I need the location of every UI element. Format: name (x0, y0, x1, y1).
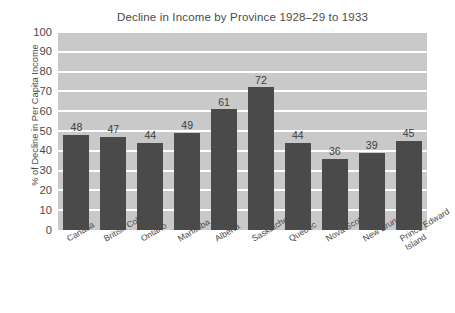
x-tick-label: Canada (65, 219, 96, 243)
x-tick-label-line: Alberta (213, 221, 242, 244)
x-tick-label: Ontario (139, 220, 168, 243)
x-tick-label: Alberta (213, 221, 242, 244)
x-tick-label-line: Manitoba (176, 217, 212, 244)
x-tick-label: Quebec (287, 219, 318, 243)
x-tick-label-line: Canada (65, 219, 96, 243)
x-tick-label-line: Ontario (139, 220, 168, 243)
x-tick-label-line: Nova Scotia (324, 211, 369, 244)
x-tick-label: Manitoba (176, 217, 212, 244)
x-tick-label-line: Quebec (287, 219, 318, 243)
x-tick-label: Nova Scotia (324, 211, 369, 244)
